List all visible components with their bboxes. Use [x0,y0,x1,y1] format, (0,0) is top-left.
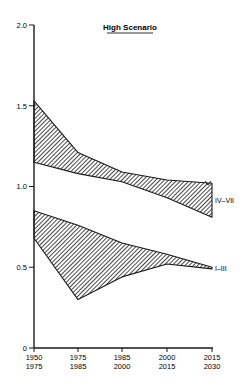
band-labels: IV–VIII–III [215,197,234,272]
y-ticks: 00.51.01.52.0 [17,21,34,353]
x-tick-label-start: 1950 [26,353,43,362]
x-ticks: 1950197519751985198520002000201520152030 [26,348,221,371]
y-tick-label: 2.0 [17,21,27,30]
chart: High Scenario 00.51.01.52.0 195019751975… [0,0,250,390]
band-i-iii [34,211,212,300]
band-iv-vii [34,101,212,217]
y-tick-label: 0.5 [17,263,27,272]
x-tick-label-start: 1975 [70,353,87,362]
chart-title: High Scenario [103,23,157,32]
y-tick-label: 1.0 [17,182,27,191]
x-tick-label-end: 1985 [70,362,87,371]
x-tick-label-end: 2030 [204,362,221,371]
bands [34,101,212,300]
x-tick-label-end: 2015 [159,362,176,371]
x-tick-label-end: 2000 [114,362,131,371]
y-tick-label: 1.5 [17,102,27,111]
x-tick-label-start: 2000 [159,353,176,362]
x-tick-label-start: 1985 [114,353,131,362]
x-tick-label-start: 2015 [204,353,221,362]
band-label: I–III [215,265,227,272]
band-label: IV–VII [215,197,234,204]
x-tick-label-end: 1975 [26,362,43,371]
y-tick-label: 0 [23,344,27,353]
